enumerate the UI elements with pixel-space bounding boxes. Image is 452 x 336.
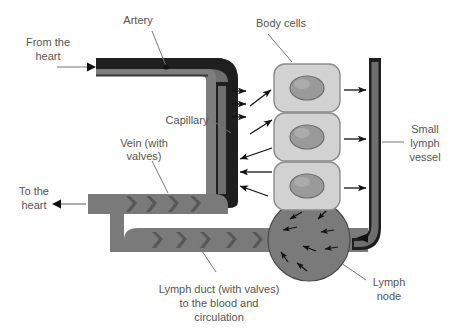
label-line: valves) [127, 150, 162, 162]
label-lymph-duct: Lymph duct (with valves) to the blood an… [159, 283, 280, 323]
artery-lower-edge [96, 75, 208, 77]
body-cell [274, 113, 340, 161]
label-artery: Artery [123, 14, 153, 26]
fluid-arrow [250, 120, 272, 134]
vein-body [88, 194, 228, 214]
cell-nucleus [290, 174, 324, 198]
label-line: To the [19, 185, 49, 197]
label-line: heart [35, 50, 60, 62]
return-arrow [240, 186, 268, 196]
label-line: Capillary [166, 114, 209, 126]
from-heart-arrow [57, 63, 96, 72]
label-line: vessel [409, 151, 440, 163]
artery-leader-dot [163, 64, 168, 69]
from-heart-arrowhead [87, 63, 96, 72]
capillary-lumen [218, 86, 226, 194]
label-capillary: Capillary [166, 114, 209, 126]
label-line: heart [21, 199, 46, 211]
fluid-arrow [250, 90, 271, 106]
label-to-the-heart: To the heart [19, 185, 49, 211]
label-line: to the blood and [180, 297, 259, 309]
label-line: From the [26, 36, 70, 48]
body-cell [274, 162, 340, 210]
lymphatic-system-diagram: From the heart Artery Capillary Vein (wi… [0, 0, 452, 336]
label-line: Lymph [373, 276, 406, 288]
label-line: node [377, 290, 401, 302]
label-line: circulation [194, 311, 244, 323]
vein-duct-connector [110, 214, 124, 252]
artery-inner-lumen [96, 69, 216, 196]
label-line: Body cells [256, 17, 307, 29]
label-vein-with-valves: Vein (with valves) [120, 137, 168, 162]
to-heart-arrowhead [52, 200, 61, 209]
body-cells-leader [268, 34, 292, 62]
return-arrow [240, 148, 272, 159]
body-cells [274, 64, 340, 210]
nucleus-highlight [294, 79, 310, 89]
label-line: Small [411, 123, 439, 135]
nucleus-highlight [294, 128, 310, 138]
tissue-fluid-to-cells-arrows [250, 90, 272, 134]
cells-to-lymph-vessel-arrows [344, 90, 366, 188]
label-line: Lymph duct (with valves) [159, 283, 280, 295]
label-line: lymph [410, 137, 439, 149]
nucleus-highlight [294, 177, 310, 187]
to-heart-arrow [52, 200, 86, 209]
cell-nucleus [290, 76, 324, 100]
vein-leader [152, 161, 168, 193]
lymph-node [268, 199, 350, 281]
cell-nucleus [290, 125, 324, 149]
label-from-the-heart: From the heart [26, 36, 70, 62]
small-lymph-vessel [352, 58, 381, 250]
lymph-node-circle [268, 199, 350, 281]
label-lymph-node: Lymph node [373, 276, 406, 302]
label-body-cells: Body cells [256, 17, 307, 29]
diagram-canvas: From the heart Artery Capillary Vein (wi… [0, 0, 452, 336]
label-line: Vein (with [120, 137, 168, 149]
cells-to-capillary-arrows [240, 148, 272, 196]
label-line: Artery [123, 14, 153, 26]
body-cell [274, 64, 340, 112]
label-small-lymph-vessel: Small lymph vessel [409, 123, 440, 163]
